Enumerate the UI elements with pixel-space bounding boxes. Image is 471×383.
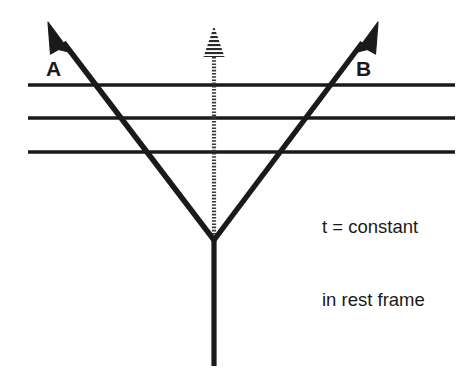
worldline-b-label: B [356, 58, 371, 79]
worldline-b-arrowhead [356, 22, 379, 54]
worldline-a-shaft [64, 43, 215, 241]
dotted-time-axis-arrowhead [204, 26, 225, 57]
spacetime-diagram-figure: A B t = constant in rest frame [0, 0, 471, 383]
rest-frame-annotation: t = constant in rest frame [322, 166, 425, 361]
worldline-a-arrow [48, 22, 214, 240]
annotation-line-2: in rest frame [322, 288, 425, 312]
worldline-a-arrowhead [48, 22, 71, 54]
constant-time-lines [28, 85, 455, 152]
annotation-line-1: t = constant [322, 215, 425, 239]
worldline-a-label: A [46, 58, 61, 79]
dotted-time-axis-arrow [204, 26, 225, 241]
